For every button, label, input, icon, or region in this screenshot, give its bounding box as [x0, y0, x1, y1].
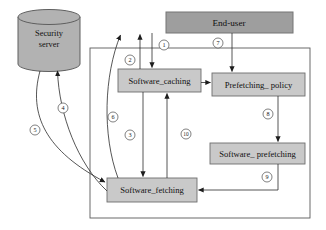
step-7-number: 7 [216, 39, 219, 46]
software-prefetching-label: Software_ prefetching [219, 149, 296, 159]
software-fetching-label: Software_fetching [120, 185, 184, 195]
step-1-number: 1 [162, 41, 165, 48]
step-7-badge: 7 [213, 38, 223, 48]
step-5-number: 5 [33, 126, 36, 133]
security-server-label-line2: server [39, 40, 60, 49]
step-6-badge: 6 [108, 112, 118, 122]
arrow-fetching-to-security-server [58, 71, 108, 191]
step-4-badge: 4 [58, 103, 68, 113]
step-8-number: 8 [266, 110, 269, 117]
prefetching-policy-label: Prefetching_ policy [225, 80, 293, 90]
arrow-fetching-to-enduser [107, 35, 120, 178]
diagram-stage: End-user Security server Software_cachin… [0, 0, 326, 230]
step-10-number: 10 [183, 131, 189, 137]
step-9-number: 9 [265, 173, 268, 180]
step-3-badge: 3 [125, 130, 135, 140]
step-9-badge: 9 [262, 172, 272, 182]
step-2-number: 2 [128, 56, 131, 63]
software-streaming-architecture-diagram: End-user Security server Software_cachin… [0, 0, 326, 230]
step-2-badge: 2 [125, 55, 135, 65]
end-user-label: End-user [212, 18, 245, 28]
step-3-number: 3 [128, 131, 131, 138]
step-6-number: 6 [111, 113, 114, 120]
step-1-badge: 1 [159, 40, 169, 50]
step-10-badge: 10 [181, 129, 191, 139]
step-8-badge: 8 [263, 109, 273, 119]
software-caching-label: Software_caching [128, 76, 191, 86]
arrow-security-server-to-fetching [36, 71, 105, 182]
security-server-label-line1: Security [35, 29, 64, 38]
step-5-badge: 5 [30, 125, 40, 135]
step-4-number: 4 [61, 104, 64, 111]
